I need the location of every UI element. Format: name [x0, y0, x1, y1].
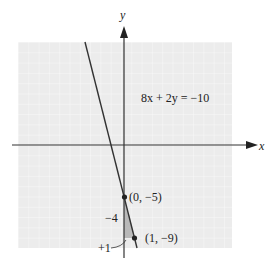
- equation-label: 8x + 2y = −10: [141, 91, 209, 105]
- x-axis-arrow-icon: [246, 141, 258, 149]
- y-axis-arrow-icon: [120, 26, 128, 38]
- x-axis-label: x: [258, 139, 265, 153]
- coordinate-graph: x y 8x + 2y = −10 (0, −5) (1, −9) −4 +1: [0, 0, 274, 268]
- y-axis-label: y: [119, 8, 126, 22]
- run-label: +1: [98, 241, 111, 255]
- point-1-neg9: [132, 235, 137, 240]
- point-label-0-neg5: (0, −5): [129, 190, 162, 204]
- rise-label: −4: [105, 211, 118, 225]
- point-label-1-neg9: (1, −9): [145, 231, 178, 245]
- point-0-neg5: [122, 194, 127, 199]
